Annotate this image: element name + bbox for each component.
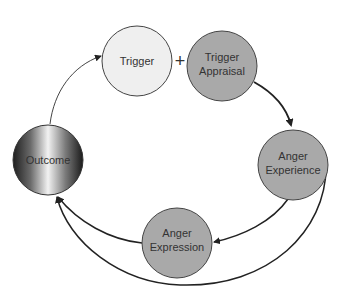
edge-experience-to-expression — [214, 199, 288, 242]
node-trigger-appraisal: Trigger Appraisal — [187, 31, 257, 101]
node-anger-experience: Anger Experience — [258, 130, 328, 200]
edge-expression-to-outcome — [58, 197, 142, 243]
anger-cycle-diagram: Trigger + Trigger Appraisal Anger Experi… — [0, 0, 344, 304]
node-anger-expression-label-1: Anger — [162, 227, 192, 239]
edge-outcome-to-trigger — [50, 56, 101, 124]
plus-operator: + — [175, 51, 186, 71]
node-trigger-appraisal-label-2: Appraisal — [199, 65, 245, 77]
node-trigger-appraisal-label-1: Trigger — [205, 51, 240, 63]
node-anger-expression: Anger Expression — [142, 208, 212, 278]
node-anger-experience-label-1: Anger — [278, 150, 308, 162]
node-trigger: Trigger — [102, 26, 172, 96]
node-outcome: Outcome — [13, 125, 83, 195]
node-trigger-label: Trigger — [120, 55, 155, 67]
node-anger-experience-label-2: Experience — [265, 164, 320, 176]
node-outcome-label: Outcome — [26, 154, 71, 166]
node-anger-expression-label-2: Expression — [150, 241, 204, 253]
edge-appraisal-to-experience — [254, 82, 291, 125]
